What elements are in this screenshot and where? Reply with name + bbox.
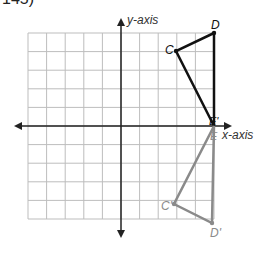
y-axis-down-arrow-icon bbox=[117, 230, 125, 238]
label-e-prime: E' bbox=[209, 115, 219, 127]
y-axis bbox=[117, 18, 125, 238]
point-c bbox=[174, 49, 178, 53]
point-c-prime bbox=[172, 202, 176, 206]
label-e: E bbox=[210, 130, 218, 142]
x-axis-label: x-axis bbox=[221, 128, 253, 142]
x-axis-left-arrow-icon bbox=[14, 122, 22, 130]
coordinate-plane: y-axis x-axis D C E' E C' D' bbox=[0, 0, 263, 254]
label-d-prime: D' bbox=[210, 226, 222, 240]
y-axis-label: y-axis bbox=[126, 13, 158, 27]
label-c: C bbox=[165, 43, 174, 57]
point-d-prime bbox=[210, 221, 214, 225]
label-d: D bbox=[211, 18, 220, 32]
y-axis-up-arrow-icon bbox=[117, 18, 125, 26]
triangle-cde-image bbox=[174, 126, 214, 223]
label-c-prime: C' bbox=[161, 199, 173, 213]
